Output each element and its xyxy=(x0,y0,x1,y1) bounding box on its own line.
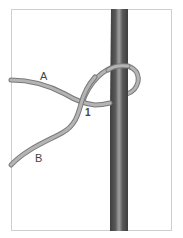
label-end-b: B xyxy=(35,153,42,164)
pole xyxy=(110,9,128,231)
knot-illustration xyxy=(0,0,183,238)
rope-end-a xyxy=(11,80,110,105)
label-end-a: A xyxy=(40,71,47,82)
label-step-1: 1 xyxy=(85,108,91,118)
